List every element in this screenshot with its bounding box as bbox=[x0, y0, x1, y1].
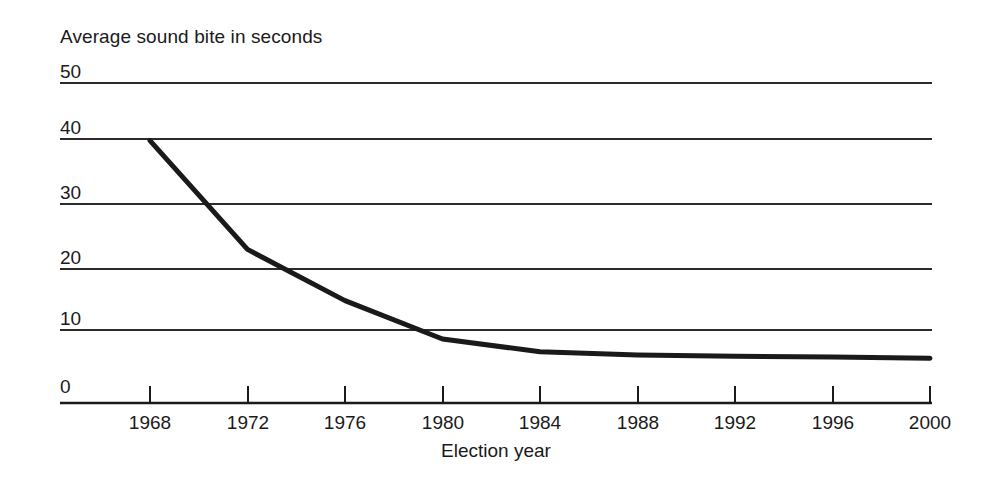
x-tick-label-1988: 1988 bbox=[617, 413, 659, 432]
chart-container: Average sound bite in seconds 50 bbox=[0, 0, 998, 492]
y-gridlines bbox=[60, 83, 932, 330]
x-tick-label-1984: 1984 bbox=[519, 413, 561, 432]
x-tick-label-1996: 1996 bbox=[812, 413, 854, 432]
x-tick-label-1968: 1968 bbox=[129, 413, 171, 432]
data-series-line bbox=[150, 141, 930, 359]
y-tick-label-30: 30 bbox=[60, 183, 81, 202]
x-tick-label-1992: 1992 bbox=[714, 413, 756, 432]
x-axis-title-wrapper: Election year bbox=[0, 440, 998, 462]
y-tick-label-20: 20 bbox=[60, 248, 81, 267]
x-tick-label-2000: 2000 bbox=[909, 413, 951, 432]
y-tick-label-40: 40 bbox=[60, 118, 81, 137]
y-tick-label-10: 10 bbox=[60, 309, 81, 328]
x-tick-label-1980: 1980 bbox=[422, 413, 464, 432]
y-tick-label-50: 50 bbox=[60, 62, 81, 81]
x-tick-label-1976: 1976 bbox=[324, 413, 366, 432]
y-tick-label-0: 0 bbox=[60, 377, 71, 396]
x-axis-ticks bbox=[150, 386, 930, 403]
x-tick-label-1972: 1972 bbox=[227, 413, 269, 432]
x-axis-title: Election year bbox=[441, 440, 551, 462]
